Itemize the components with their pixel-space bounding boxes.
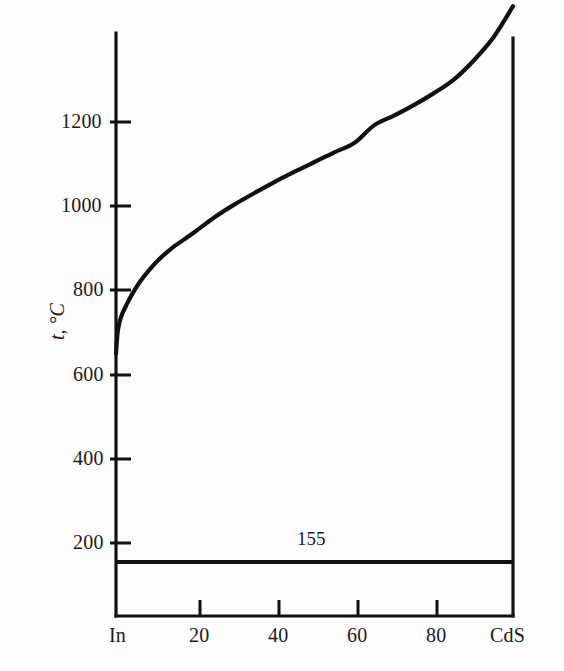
y-tick-label-1000: 1000 (61, 194, 102, 217)
y-tick-label-400: 400 (73, 447, 104, 470)
x-tick-label-80: 80 (426, 624, 446, 647)
liquidus-curve (116, 6, 513, 353)
y-tick-label-600: 600 (73, 363, 104, 386)
y-tick-label-200: 200 (73, 531, 104, 554)
eutectic-temp-label: 155 (297, 528, 326, 550)
phase-diagram-figure: 1200 1000 800 600 400 200 t, °C In 20 40… (0, 0, 564, 671)
y-tick-marks (110, 122, 131, 543)
y-tick-label-800: 800 (73, 278, 104, 301)
y-tick-label-1200: 1200 (61, 110, 102, 133)
x-tick-label-20: 20 (189, 624, 209, 647)
x-tick-label-40: 40 (268, 624, 288, 647)
x-tick-label-60: 60 (347, 624, 367, 647)
y-axis-label: t, °C (46, 303, 69, 340)
x-tick-label-In: In (109, 624, 126, 647)
chart-canvas (0, 0, 564, 671)
x-tick-label-CdS: CdS (490, 624, 525, 647)
